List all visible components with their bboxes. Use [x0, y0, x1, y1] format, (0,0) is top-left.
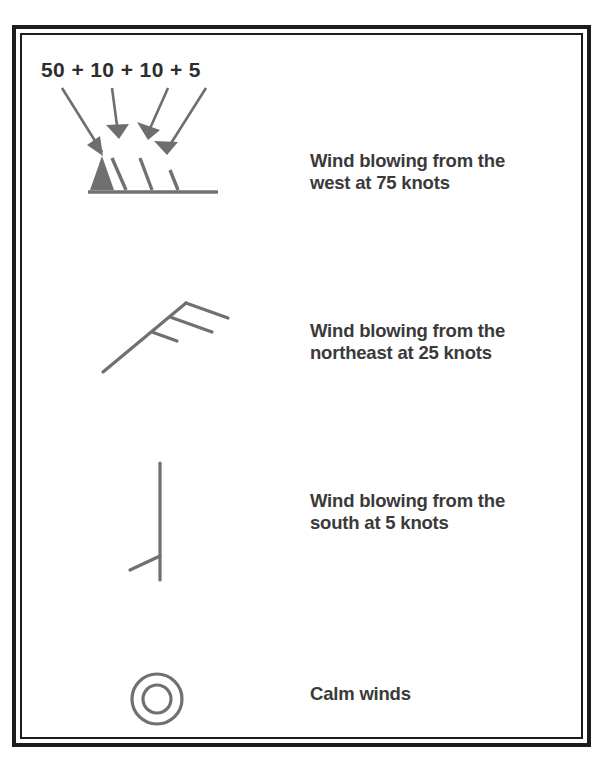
calm-winds-circle	[0, 0, 611, 772]
label-calm: Calm winds	[310, 683, 411, 705]
calm-circle-inner	[143, 685, 171, 713]
wind-barb-figure: 50 + 10 + 10 + 5	[0, 0, 611, 772]
calm-circle-outer	[132, 674, 182, 724]
